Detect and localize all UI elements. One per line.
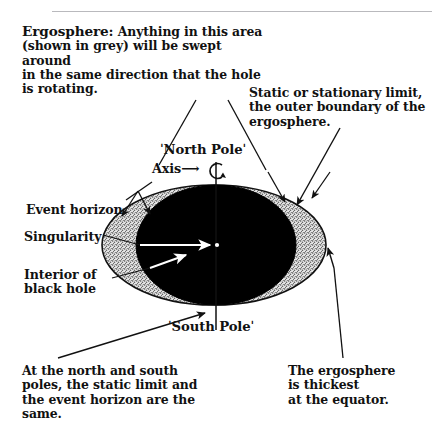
north-pole-label: ˈNorth Poleˈ (160, 142, 246, 157)
interior-of-black-hole-label: Interior of black hole (24, 268, 144, 297)
figure-page: Ergosphere: Anything in this area (shown… (0, 0, 439, 435)
axis-label-text: Axis (152, 161, 181, 176)
static-limit-note: Static or stationary limit, the outer bo… (249, 86, 439, 129)
rotation-spin-icon (210, 163, 226, 178)
static-limit-arrow (297, 128, 340, 205)
equator-arrow (328, 248, 334, 268)
south-pole-label: ˈSouth Poleˈ (168, 319, 254, 334)
poles-same-note: At the north and south poles, the static… (22, 364, 237, 421)
ergosphere-note: Ergosphere: Anything in this area (shown… (22, 24, 272, 96)
equator-thickest-note: The ergosphere is thickest at the equato… (288, 364, 438, 407)
ergosphere-note-lead: Ergosphere: (22, 23, 114, 39)
axis-label: Axis⟶ (152, 161, 199, 176)
axis-arrow-icon: ⟶ (181, 161, 199, 176)
equator-note-leader (334, 268, 343, 358)
event-horizon-label: Event horizon (26, 202, 123, 217)
singularity-point (215, 243, 219, 247)
singularity-label: Singularity (24, 229, 101, 244)
